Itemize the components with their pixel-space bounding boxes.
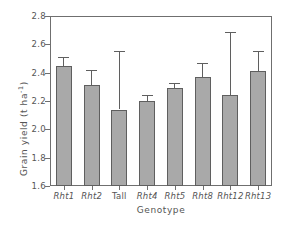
x-tick-mark (64, 186, 65, 190)
bar[interactable] (111, 110, 127, 187)
error-bar-stem (230, 32, 231, 96)
y-axis-title-tail: ) (19, 81, 29, 85)
x-tick-label: Rht1 (50, 191, 78, 201)
bar[interactable] (250, 71, 266, 186)
bars-layer (50, 16, 272, 186)
x-axis-title: Genotype (50, 205, 272, 215)
bar[interactable] (222, 95, 238, 186)
y-tick-label: 2.4 (22, 68, 46, 78)
error-bar-cap (225, 32, 236, 33)
y-tick-label: 1.8 (22, 153, 46, 163)
bar-group[interactable] (195, 16, 211, 186)
y-axis-title-container: Grain yield (t ha-1) (0, 0, 22, 200)
error-bar-cap (253, 51, 264, 52)
x-tick-label: Rht13 (244, 191, 272, 201)
error-bar-cap (142, 95, 153, 96)
x-tick-mark (119, 186, 120, 190)
bar[interactable] (84, 85, 100, 186)
y-tick-mark (45, 186, 50, 187)
x-tick-label: Rht5 (161, 191, 189, 201)
x-tick-mark (203, 186, 204, 190)
y-tick-label: 2.2 (22, 96, 46, 106)
error-bar-stem (202, 63, 203, 77)
error-bar-cap (169, 83, 180, 84)
bar[interactable] (139, 101, 155, 186)
x-tick-mark (175, 186, 176, 190)
x-tick-mark (147, 186, 148, 190)
bar-chart-figure: Grain yield (t ha-1) 1.61.82.02.22.42.62… (0, 0, 286, 228)
bar-group[interactable] (250, 16, 266, 186)
bar-group[interactable] (111, 16, 127, 186)
error-bar-stem (91, 70, 92, 86)
x-tick-mark (258, 186, 259, 190)
error-bar-cap (58, 57, 69, 58)
bar-group[interactable] (84, 16, 100, 186)
x-tick-label: Rht4 (133, 191, 161, 201)
bar[interactable] (167, 88, 183, 186)
error-bar-cap (86, 70, 97, 71)
x-tick-mark (230, 186, 231, 190)
bar-group[interactable] (139, 16, 155, 186)
error-bar-cap (114, 51, 125, 52)
x-tick-label: Rht12 (217, 191, 245, 201)
x-tick-label: Rht2 (78, 191, 106, 201)
x-tick-label: Rht8 (189, 191, 217, 201)
x-tick-label: Tall (106, 191, 134, 201)
y-tick-label: 2.6 (22, 39, 46, 49)
x-tick-mark (92, 186, 93, 190)
bar[interactable] (56, 66, 72, 186)
error-bar-stem (258, 51, 259, 71)
error-bar-cap (197, 63, 208, 64)
y-tick-label: 1.6 (22, 181, 46, 191)
y-tick-label: 2.8 (22, 11, 46, 21)
bar-group[interactable] (167, 16, 183, 186)
y-axis-title-exponent: -1 (17, 85, 25, 93)
error-bar-stem (119, 51, 120, 109)
bar[interactable] (195, 77, 211, 186)
bar-group[interactable] (222, 16, 238, 186)
error-bar-stem (63, 57, 64, 66)
bar-group[interactable] (56, 16, 72, 186)
y-tick-label: 2.0 (22, 124, 46, 134)
